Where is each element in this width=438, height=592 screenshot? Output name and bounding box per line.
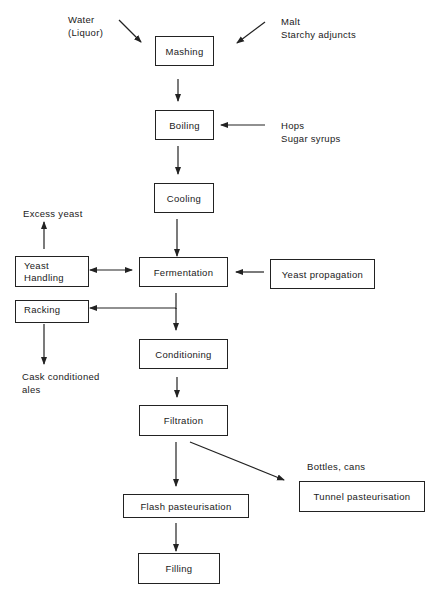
step-tunnel-pasteurisation: Tunnel pasteurisation (299, 481, 425, 512)
step-fermentation: Fermentation (139, 257, 228, 287)
step-flash-pasteurisation: Flash pasteurisation (123, 494, 249, 518)
output-bottles-cans-label: Bottles, cans (307, 460, 365, 473)
step-filling: Filling (138, 553, 220, 584)
step-boiling: Boiling (155, 110, 214, 140)
input-hops-label: Hops Sugar syrups (281, 119, 341, 145)
output-excess-yeast-label: Excess yeast (23, 207, 83, 220)
step-mashing: Mashing (155, 36, 214, 66)
step-yeast-propagation: Yeast propagation (270, 259, 375, 289)
step-conditioning: Conditioning (139, 339, 228, 369)
input-water-label: Water (Liquor) (68, 13, 103, 39)
arrow-filtration-tunnel (190, 442, 284, 480)
arrow-water-mashing (119, 20, 141, 42)
step-yeast-handling: Yeast Handling (15, 256, 89, 287)
step-filtration: Filtration (139, 405, 228, 436)
arrow-malt-mashing (237, 22, 265, 43)
step-cooling: Cooling (154, 183, 214, 213)
input-malt-label: Malt Starchy adjuncts (281, 15, 356, 41)
output-cask-ales-label: Cask conditioned ales (22, 370, 100, 396)
step-racking: Racking (15, 300, 89, 323)
